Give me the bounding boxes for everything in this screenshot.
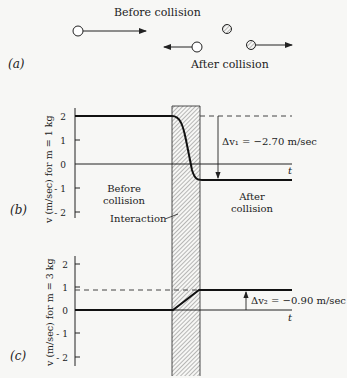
- panel-c-label: (c): [10, 349, 26, 363]
- t-label-c: t: [288, 312, 293, 323]
- ball-hatched-after-icon: [247, 41, 256, 50]
- tick-b-m1: - 1: [54, 184, 66, 194]
- ball-white-before-icon: [73, 26, 83, 36]
- panel-b-label: (b): [10, 203, 27, 217]
- before-collision-label: Before collision: [114, 6, 201, 19]
- tick-b-m2: - 2: [54, 208, 66, 218]
- tick-c-m2: - 2: [56, 353, 68, 363]
- panel-a: Before collision (a) After collision: [8, 6, 292, 71]
- before-label-b-1: Before: [107, 183, 141, 194]
- after-label-b-2: collision: [231, 203, 274, 214]
- tick-b-2: 2: [60, 112, 66, 122]
- interaction-label: Interaction: [110, 213, 167, 224]
- tick-c-1: 1: [62, 283, 68, 293]
- tick-b-1: 1: [60, 136, 66, 146]
- tick-b-0: 0: [60, 160, 66, 170]
- tick-c-m1: - 1: [56, 329, 68, 339]
- t-label-b: t: [288, 165, 293, 176]
- panel-a-label: (a): [8, 57, 25, 71]
- tick-c-0: 0: [62, 306, 68, 316]
- after-label-b-1: After: [238, 191, 265, 202]
- y-label-c: v (m/sec) for m = 3 kg: [44, 258, 55, 367]
- after-collision-label: After collision: [190, 58, 269, 71]
- ball-hatched-before-icon: [223, 25, 232, 34]
- collision-diagram: Before collision (a) After collision 2 1…: [0, 0, 347, 378]
- delta-v1-label: Δv₁ = −2.70 m/sec: [222, 136, 317, 147]
- ball-white-after-icon: [192, 42, 202, 52]
- delta-v2-label: Δv₂ = −0.90 m/sec: [251, 295, 346, 306]
- before-label-b-2: collision: [103, 195, 146, 206]
- panel-b: 2 1 0 - 1 - 2 v (m/sec) for m = 1 kg (b)…: [10, 108, 317, 224]
- tick-c-2: 2: [62, 260, 68, 270]
- y-label-b: v (m/sec) for m = 1 kg: [43, 115, 54, 224]
- interaction-band: [172, 106, 200, 376]
